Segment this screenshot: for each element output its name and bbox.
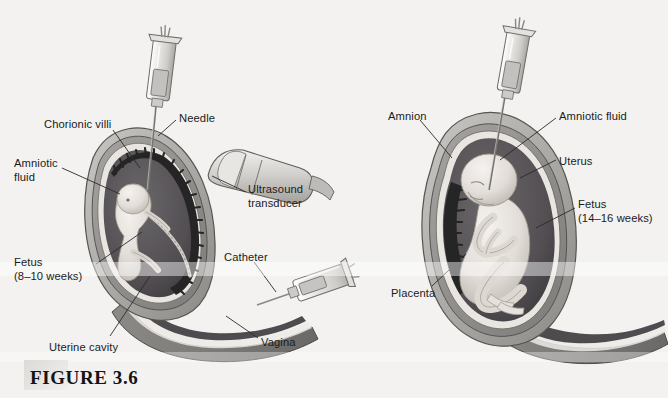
label-fetus-right: Fetus (14–16 weeks) xyxy=(578,198,653,225)
figure-3-6: Chorionic villi Needle Amniotic fluid Ul… xyxy=(0,0,668,398)
label-uterine-cavity: Uterine cavity xyxy=(49,341,118,355)
label-vagina: Vagina xyxy=(261,336,296,350)
label-amniotic-fluid-left: Amniotic fluid xyxy=(14,157,58,184)
label-amnion: Amnion xyxy=(388,110,427,124)
label-ultrasound-transducer: Ultrasound transducer xyxy=(248,183,303,210)
label-needle: Needle xyxy=(179,112,215,126)
medical-illustration xyxy=(0,0,668,398)
label-chorionic-villi: Chorionic villi xyxy=(44,118,111,132)
figure-caption: FIGURE 3.6 xyxy=(30,367,138,389)
label-placenta: Placenta xyxy=(391,287,435,301)
label-amniotic-fluid-right: Amniotic fluid xyxy=(559,110,627,124)
label-catheter: Catheter xyxy=(224,251,268,265)
label-uterus: Uterus xyxy=(559,155,593,169)
label-fetus-left: Fetus (8–10 weeks) xyxy=(14,256,82,283)
